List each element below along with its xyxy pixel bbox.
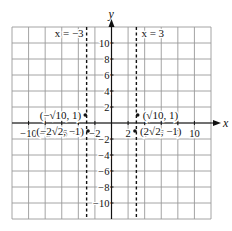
x-tick-label: −10	[20, 128, 36, 139]
x-tick-label: 10	[189, 128, 200, 139]
y-tick-label: −8	[98, 182, 109, 193]
data-point	[86, 129, 90, 133]
graph: xy−10−8−6−4−2246810−10−8−6−4−2246810x = …	[0, 0, 232, 231]
y-tick-label: 8	[104, 54, 109, 65]
y-tick-label: 4	[104, 86, 110, 97]
y-tick-label: 6	[104, 70, 109, 81]
asymptote-label: x = 3	[141, 27, 164, 39]
y-tick-label: −6	[98, 166, 109, 177]
data-point	[133, 129, 137, 133]
x-axis-label: x	[222, 116, 229, 130]
y-tick-label: 2	[104, 102, 109, 113]
asymptote-label: x = −3	[55, 27, 84, 39]
point-label: (2√2, −1)	[140, 125, 182, 138]
point-label: (√10, 1)	[143, 109, 179, 122]
y-tick-label: −10	[93, 198, 109, 209]
x-tick-label: 2	[125, 128, 130, 139]
y-axis-label: y	[108, 7, 115, 21]
y-tick-label: −2	[98, 134, 109, 145]
data-point	[83, 113, 87, 117]
data-point	[136, 113, 140, 117]
y-tick-label: −4	[98, 150, 110, 161]
x-axis-arrow-icon	[213, 120, 221, 126]
point-label: (−2√2, −1)	[36, 125, 84, 138]
y-tick-label: 10	[99, 38, 110, 49]
point-label: (−√10, 1)	[40, 109, 82, 122]
